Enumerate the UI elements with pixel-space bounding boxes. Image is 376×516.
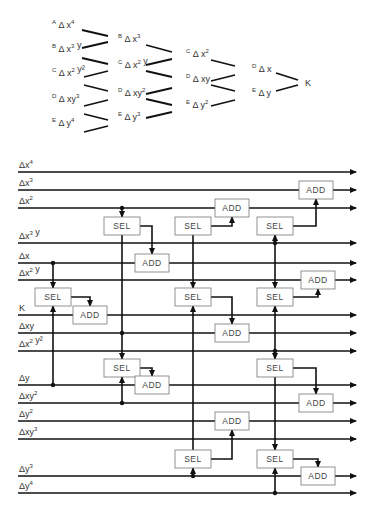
sel-block-label: SEL: [184, 292, 202, 302]
sel-block-label: SEL: [266, 292, 284, 302]
tree-term-label: C Δ x2 y²: [52, 64, 85, 78]
wire-label: K: [19, 303, 25, 313]
tree-term-label: E Δ y4: [52, 117, 75, 128]
add-block-label: ADD: [222, 416, 241, 426]
add-block-label: ADD: [142, 258, 161, 268]
wire-label: Δy3: [19, 463, 34, 474]
sel-block-label: SEL: [266, 363, 284, 373]
sel-block-label: SEL: [266, 454, 284, 464]
wire-label: Δxy3: [19, 426, 38, 437]
wire-label: Δx4: [19, 159, 34, 170]
tree-term-label: B Δ x3 y: [52, 40, 82, 54]
add-block-label: ADD: [222, 328, 241, 338]
add-block-label: ADD: [306, 398, 325, 408]
add-block-label: ADD: [308, 275, 327, 285]
wire-label: Δx2 y: [19, 264, 40, 278]
tree-term-label: E Δ y2: [186, 99, 209, 110]
add-block-label: ADD: [222, 203, 241, 213]
diagram-canvas: A Δ x4B Δ x3 yC Δ x2 y²D Δ xy3E Δ y4B Δ …: [0, 0, 376, 516]
tree-term-label: C Δ x2: [186, 48, 209, 59]
wire-label: Δx2 y²: [19, 335, 43, 349]
wire-label: Δy2: [19, 408, 34, 419]
wire-label: Δx3: [19, 177, 34, 188]
wire-label: Δy: [19, 373, 30, 383]
add-block-label: ADD: [306, 185, 325, 195]
tree-term-label: D Δ xy: [186, 73, 210, 84]
sel-block-label: SEL: [113, 221, 131, 231]
sel-block-label: SEL: [266, 221, 284, 231]
add-block-label: ADD: [142, 380, 161, 390]
sel-block-label: SEL: [184, 221, 202, 231]
tree-result-label: K: [305, 78, 311, 88]
wire-label: Δx3 y: [19, 227, 40, 241]
tree-term-label: D Δ xy3: [52, 93, 80, 104]
add-block-label: ADD: [308, 471, 327, 481]
sel-block-label: SEL: [44, 292, 62, 302]
wire-label: Δy4: [19, 480, 34, 491]
signal-wires: Δx4Δx3Δx2Δx3 yΔxΔx2 yKΔxyΔx2 y²ΔyΔxy2Δy2…: [18, 159, 356, 493]
tree-term-label: D Δ xy2: [118, 87, 146, 98]
add-block-label: ADD: [80, 310, 99, 320]
tree-term-label: E Δ y: [252, 87, 272, 98]
tree-term-label: E Δ y3: [118, 111, 141, 122]
tree-term-label: C Δ x2 y: [118, 56, 148, 70]
wire-label: Δxy2: [19, 390, 38, 401]
wire-label: Δx: [19, 251, 30, 261]
wire-label: Δxy: [19, 321, 35, 331]
sel-block-label: SEL: [113, 363, 131, 373]
tree-term-label: B Δ x3: [118, 33, 141, 44]
sel-block-label: SEL: [184, 454, 202, 464]
tree-term-label: A Δ x4: [52, 19, 75, 30]
tree-labels: A Δ x4B Δ x3 yC Δ x2 y²D Δ xy3E Δ y4B Δ …: [52, 19, 311, 128]
tree-term-label: D Δ x: [252, 63, 272, 74]
wire-label: Δx2: [19, 195, 34, 206]
